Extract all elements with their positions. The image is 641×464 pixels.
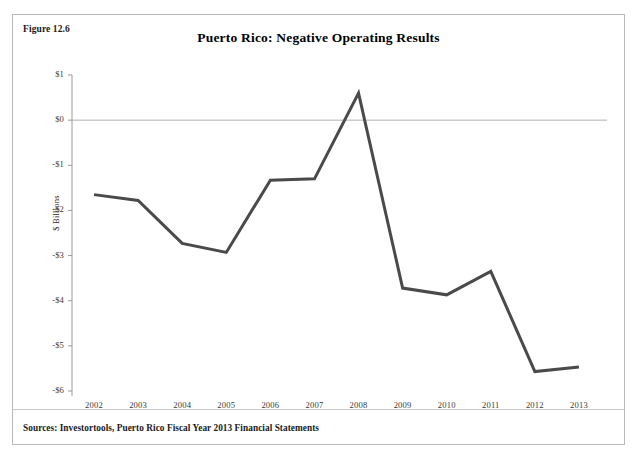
y-axis-tick-label: $1 xyxy=(28,69,64,79)
y-axis-tick-label: -$3 xyxy=(28,250,64,260)
y-axis-tick-label: $0 xyxy=(28,114,64,124)
source-note: Sources: Investortools, Puerto Rico Fisc… xyxy=(23,423,319,433)
y-axis-tick-label: -$4 xyxy=(28,295,64,305)
y-axis-tick-label: -$5 xyxy=(28,340,64,350)
source-divider xyxy=(13,409,624,410)
plot-area: $ Billions $1$0-$1-$2-$3-$4-$5-$62002200… xyxy=(13,15,626,446)
y-axis-tick-label: -$1 xyxy=(28,159,64,169)
y-axis-tick-label: -$6 xyxy=(28,385,64,395)
y-axis-tick-label: -$2 xyxy=(28,204,64,214)
series-line-operating-results xyxy=(94,93,579,372)
line-chart-svg xyxy=(13,15,626,446)
figure-frame: Figure 12.6 Puerto Rico: Negative Operat… xyxy=(12,14,625,445)
